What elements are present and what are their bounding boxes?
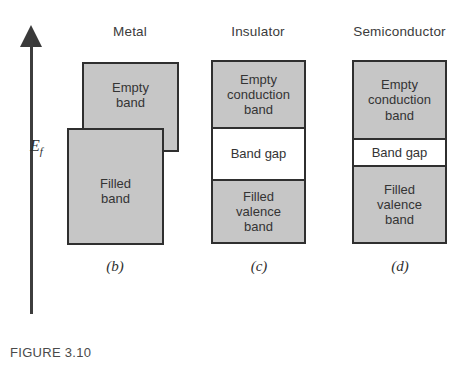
semiconductor-band-gap-label: Band gap — [370, 145, 430, 160]
figure-caption: FIGURE 3.10 — [10, 345, 91, 360]
semiconductor-band-gap-box: Band gap — [352, 138, 447, 167]
fermi-energy-label: Ef — [30, 137, 43, 157]
sub-label-d: (d) — [365, 258, 435, 275]
semiconductor-conduction-band-label: Empty conduction band — [366, 77, 433, 123]
semiconductor-valence-band-label: Filled valence band — [375, 182, 424, 228]
semiconductor-valence-band-box: Filled valence band — [352, 165, 447, 244]
energy-axis — [14, 14, 50, 314]
insulator-valence-band-label: Filled valence band — [234, 189, 283, 235]
insulator-band-gap-label: Band gap — [229, 146, 289, 161]
metal-filled-band-box: Filled band — [67, 128, 164, 245]
column-header-semiconductor: Semiconductor — [337, 24, 462, 39]
sub-label-c: (c) — [224, 258, 294, 275]
insulator-conduction-band-box: Empty conduction band — [211, 60, 306, 129]
fermi-energy-subscript: f — [40, 145, 43, 157]
sub-label-b: (b) — [80, 258, 150, 275]
insulator-conduction-band-label: Empty conduction band — [225, 72, 292, 118]
metal-filled-band-label: Filled band — [98, 176, 133, 207]
axis-line — [30, 40, 33, 314]
insulator-band-gap-box: Band gap — [211, 127, 306, 181]
semiconductor-conduction-band-box: Empty conduction band — [352, 60, 447, 140]
metal-empty-band-label: Empty band — [110, 80, 151, 111]
insulator-valence-band-box: Filled valence band — [211, 179, 306, 244]
column-header-insulator: Insulator — [203, 24, 313, 39]
fermi-energy-symbol: E — [30, 137, 40, 154]
figure-container: Metal Insulator Semiconductor Ef Empty b… — [0, 0, 469, 373]
column-header-metal: Metal — [75, 24, 185, 39]
